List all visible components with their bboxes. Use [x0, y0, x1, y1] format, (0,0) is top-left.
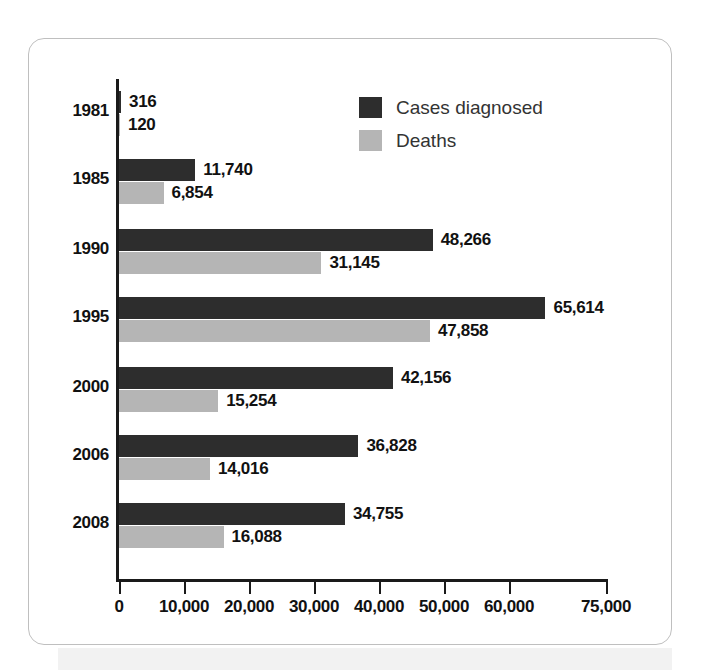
x-axis-tick — [379, 582, 381, 594]
chart-legend: Cases diagnosedDeaths — [359, 91, 543, 157]
chart-card: 010,00020,00030,00040,00050,00060,00075,… — [28, 38, 672, 645]
x-axis-tick-label: 75,000 — [581, 597, 631, 617]
bar-cases-1995[interactable] — [119, 297, 545, 319]
x-axis-tick — [119, 582, 121, 594]
bar-value-cases-1995: 65,614 — [553, 297, 603, 319]
bar-value-cases-1990: 48,266 — [441, 229, 491, 251]
x-axis-tick — [314, 582, 316, 594]
legend-swatch — [359, 97, 382, 118]
bar-deaths-2008[interactable] — [119, 526, 224, 548]
bar-value-deaths-1985: 6,854 — [172, 182, 213, 204]
bar-cases-1990[interactable] — [119, 229, 433, 251]
legend-item[interactable]: Cases diagnosed — [359, 91, 543, 124]
bar-deaths-1990[interactable] — [119, 252, 321, 274]
category-label-2000: 2000 — [72, 377, 109, 397]
bar-value-cases-1981: 316 — [129, 91, 156, 113]
bar-value-deaths-1990: 31,145 — [329, 252, 379, 274]
bar-cases-1985[interactable] — [119, 159, 195, 181]
bar-cases-2008[interactable] — [119, 503, 345, 525]
legend-label: Deaths — [396, 130, 456, 152]
bar-cases-1981[interactable] — [119, 91, 121, 113]
legend-label: Cases diagnosed — [396, 97, 543, 119]
bar-deaths-1981[interactable] — [119, 114, 120, 136]
x-axis-tick-label: 40,000 — [354, 597, 404, 617]
bar-value-deaths-1995: 47,858 — [438, 320, 488, 342]
legend-swatch — [359, 130, 382, 151]
bar-deaths-2006[interactable] — [119, 458, 210, 480]
bar-deaths-2000[interactable] — [119, 390, 218, 412]
bar-value-deaths-1981: 120 — [128, 114, 155, 136]
x-axis-tick-label: 50,000 — [419, 597, 469, 617]
category-label-1985: 1985 — [72, 169, 109, 189]
bar-value-cases-2000: 42,156 — [401, 367, 451, 389]
x-axis-tick — [509, 582, 511, 594]
bar-deaths-1995[interactable] — [119, 320, 430, 342]
bar-value-cases-2006: 36,828 — [366, 435, 416, 457]
bar-deaths-1985[interactable] — [119, 182, 164, 204]
x-axis-tick-label: 60,000 — [484, 597, 534, 617]
x-axis-tick-label: 10,000 — [159, 597, 209, 617]
category-label-1995: 1995 — [72, 307, 109, 327]
category-label-2006: 2006 — [72, 445, 109, 465]
category-label-1990: 1990 — [72, 239, 109, 259]
bar-chart-plot: 010,00020,00030,00040,00050,00060,00075,… — [29, 39, 673, 646]
bar-cases-2000[interactable] — [119, 367, 393, 389]
category-label-1981: 1981 — [72, 101, 109, 121]
x-axis-tick — [184, 582, 186, 594]
x-axis-tick — [444, 582, 446, 594]
bar-value-deaths-2006: 14,016 — [218, 458, 268, 480]
x-axis-tick-label: 20,000 — [224, 597, 274, 617]
legend-item[interactable]: Deaths — [359, 124, 543, 157]
category-label-2008: 2008 — [72, 513, 109, 533]
bar-cases-2006[interactable] — [119, 435, 358, 457]
bar-value-cases-1985: 11,740 — [203, 159, 252, 181]
bar-value-deaths-2008: 16,088 — [232, 526, 282, 548]
bar-value-deaths-2000: 15,254 — [226, 390, 276, 412]
x-axis-line — [116, 579, 608, 582]
x-axis-tick-label: 0 — [114, 597, 123, 617]
x-axis-tick — [249, 582, 251, 594]
page-bottom-band — [58, 648, 672, 670]
x-axis-tick — [606, 582, 608, 594]
bar-value-cases-2008: 34,755 — [353, 503, 403, 525]
x-axis-tick-label: 30,000 — [289, 597, 339, 617]
